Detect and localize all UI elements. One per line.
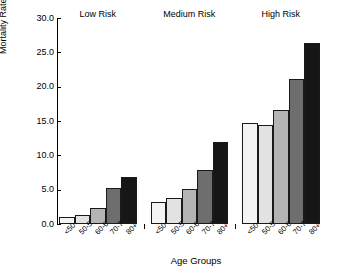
bar [273,110,289,224]
group-separator-tick [235,224,236,229]
y-tick-mark [57,190,61,191]
bar [258,125,274,224]
group-separator-tick [144,224,145,229]
y-tick-label: 25.0 [20,48,54,57]
bar [213,142,229,224]
y-axis-tick-labels: 0.05.010.015.020.025.030.0 [18,0,54,273]
bar [242,123,258,223]
y-tick-mark [57,52,61,53]
group-title-3: High Risk [242,9,320,19]
y-tick-label: 30.0 [20,14,54,23]
y-tick-label: 0.0 [20,220,54,229]
y-tick-mark [57,87,61,88]
group-title-2: Medium Risk [151,9,229,19]
y-tick-label: 20.0 [20,82,54,91]
y-tick-mark [57,224,61,225]
bar [151,202,167,223]
x-axis-label: Age Groups [57,255,335,266]
y-axis-label: Mortality Rate (%) [0,0,8,78]
bar [121,177,137,224]
y-tick-label: 15.0 [20,117,54,126]
y-tick-label: 5.0 [20,185,54,194]
bar [304,43,320,224]
group-title-1: Low Risk [59,9,137,19]
y-tick-label: 10.0 [20,151,54,160]
mortality-rate-bar-chart: Mortality Rate (%) 0.05.010.015.020.025.… [0,0,339,273]
y-tick-mark [57,155,61,156]
y-tick-mark [57,121,61,122]
y-tick-mark [57,18,61,19]
bar [289,79,305,223]
bar [197,170,213,224]
